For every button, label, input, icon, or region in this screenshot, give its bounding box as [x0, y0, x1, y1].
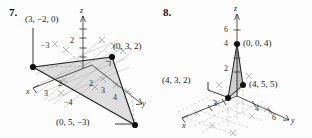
tick-label-grid2a-7: 2 [58, 80, 62, 88]
vertex-dot-c-8 [240, 82, 246, 88]
axis-label-z-8: z [234, 5, 237, 13]
vertex-dot-apex-8 [234, 41, 240, 47]
textbook-figure-page: 7. (3, −2, 0) (0, 3, 2) (0, 5, −3) x y z… [0, 0, 312, 138]
tick-label-z6-8: 6 [224, 26, 228, 34]
tick-label-neg4-7: −4 [64, 99, 73, 107]
axis-label-y-7: y [142, 100, 146, 108]
point-label-4-5-5: (4, 5, 5) [249, 80, 278, 89]
leader-line-b-8 [208, 90, 227, 97]
problem-number-7: 7. [9, 6, 17, 18]
tick-label-y4-8: 4 [255, 105, 259, 113]
tick-label-z2-7: 2 [70, 37, 74, 45]
figure-7-panel: 7. (3, −2, 0) (0, 3, 2) (0, 5, −3) x y z… [0, 0, 156, 138]
vertex-dot-b-8 [225, 95, 231, 101]
y-axis-8 [237, 96, 289, 120]
tick-label-x3-8: 3 [213, 100, 217, 108]
vertex-dot-a-7 [30, 64, 36, 70]
axis-label-x-7: x [26, 88, 30, 96]
tick-label-y4-7: 4 [113, 94, 117, 102]
vertex-dot-b-7 [109, 54, 115, 60]
figure-8-panel: 8. (0, 0, 4) (4, 3, 2) (4, 5, 5) x y z 6… [156, 0, 312, 138]
figure-8-graphic [156, 0, 312, 138]
tick-label-x3-7: 3 [44, 90, 48, 98]
point-label-0-5-neg3: (0, 5, −3) [56, 118, 90, 127]
axis-label-y-8: y [291, 117, 295, 125]
point-label-4-3-2: (4, 3, 2) [162, 76, 191, 85]
point-label-0-0-4: (0, 0, 4) [243, 39, 272, 48]
vertex-dot-c-7 [132, 122, 138, 128]
tick-label-z2-8: 2 [224, 65, 228, 73]
axis-label-x-8: x [182, 122, 186, 130]
axis-label-z-7: z [80, 7, 83, 15]
point-label-0-3-2: (0, 3, 2) [113, 42, 142, 51]
tick-label-grid2b-7: 2 [89, 80, 93, 88]
problem-number-8: 8. [163, 6, 171, 18]
point-label-3-neg2-0: (3, −2, 0) [25, 15, 59, 24]
tick-label-y6-8: 6 [272, 114, 276, 122]
tick-label-neg3-7: −3 [41, 42, 50, 50]
ground-grid-8 [178, 86, 274, 135]
tick-label-z4-8: 4 [224, 40, 228, 48]
tick-label-y3-7: 3 [101, 87, 105, 95]
